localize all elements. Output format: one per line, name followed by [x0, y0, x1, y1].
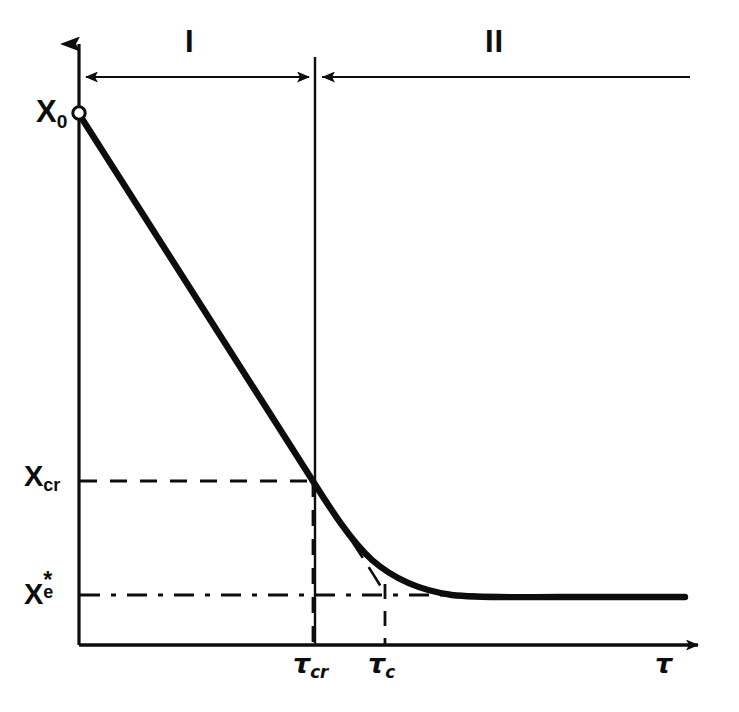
y-tick-label-x0: X0	[36, 96, 67, 127]
x-axis-label: τ	[655, 650, 672, 677]
xe-script-stack: *e	[43, 576, 58, 605]
x0-subscript: 0	[57, 111, 68, 132]
diagram-canvas	[0, 0, 739, 712]
xe-subscript: e	[43, 583, 53, 601]
xcr-symbol: X	[24, 460, 43, 492]
x0-symbol: X	[36, 94, 57, 129]
y-tick-label-xe: X*e	[24, 575, 58, 609]
moisture-curve	[79, 114, 685, 597]
tau-cr-symbol: τ	[293, 648, 310, 679]
region-label-1: I	[185, 26, 195, 57]
tau-cr-subscript: cr	[310, 662, 328, 682]
x-tick-label-tau-cr: τcr	[293, 650, 328, 677]
x-tick-label-tau-c: τc	[368, 650, 395, 677]
xcr-subscript: cr	[43, 475, 60, 495]
tau-c-subscript: c	[385, 662, 395, 682]
xe-symbol: X	[24, 578, 43, 610]
region-label-2: II	[485, 26, 504, 57]
x0-point-marker	[73, 107, 85, 119]
tau-c-symbol: τ	[368, 648, 385, 679]
y-tick-label-xcr: Xcr	[24, 462, 60, 491]
figure-container: X0 Xcr X*e I II τcr τc τ	[0, 0, 739, 712]
